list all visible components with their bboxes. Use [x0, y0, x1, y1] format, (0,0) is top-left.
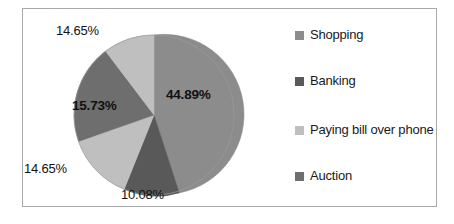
pie-svg: [23, 9, 293, 208]
legend-item-shopping[interactable]: Shopping: [295, 27, 363, 42]
legend-swatch-icon-banking: [295, 77, 304, 86]
legend-label-auction: Auction: [310, 168, 352, 183]
legend-swatch-icon-paying-bill-over-phone: [295, 126, 304, 135]
legend-label-banking: Banking: [310, 73, 356, 88]
chart-frame: 44.89% 15.73% 14.65% 14.65% 10.08% Shopp…: [22, 8, 437, 207]
legend-item-auction[interactable]: Auction: [295, 168, 352, 183]
legend-swatch-icon-shopping: [295, 31, 304, 40]
pie-label-banking: 10.08%: [121, 187, 164, 202]
legend-label-shopping: Shopping: [310, 27, 363, 42]
pie-chart: 44.89% 15.73% 14.65% 14.65% 10.08%: [23, 9, 293, 208]
chart-canvas: 44.89% 15.73% 14.65% 14.65% 10.08% Shopp…: [0, 0, 454, 224]
pie-label-shopping: 44.89%: [166, 87, 211, 102]
pie-label-paying-bill-top: 14.65%: [56, 23, 99, 38]
legend-label-paying-bill-over-phone: Paying bill over phone: [310, 122, 434, 137]
legend-item-banking[interactable]: Banking: [295, 73, 356, 88]
chart-legend: Shopping Banking Paying bill over phone …: [295, 23, 438, 198]
pie-label-paying-bill-bottom: 14.65%: [24, 161, 67, 176]
legend-item-paying-bill-over-phone[interactable]: Paying bill over phone: [295, 122, 435, 137]
pie-label-auction: 15.73%: [72, 98, 117, 113]
legend-swatch-icon-auction: [295, 172, 304, 181]
